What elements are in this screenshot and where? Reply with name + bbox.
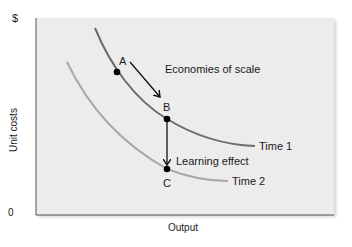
learning-effect-label: Learning effect bbox=[176, 155, 249, 167]
y-tick-zero: 0 bbox=[8, 207, 14, 218]
x-axis-label: Output bbox=[168, 222, 198, 233]
chart-canvas bbox=[0, 0, 352, 247]
point-a-label: A bbox=[119, 55, 126, 67]
economies-of-scale-label: Economies of scale bbox=[165, 63, 260, 75]
point-c-marker bbox=[164, 166, 171, 173]
time2-label: Time 2 bbox=[232, 175, 265, 187]
y-tick-top: $ bbox=[12, 12, 18, 24]
point-b-label: B bbox=[163, 101, 170, 113]
time1-curve bbox=[95, 28, 255, 146]
time1-label: Time 1 bbox=[259, 140, 292, 152]
point-c-label: C bbox=[163, 177, 171, 189]
point-a-marker bbox=[114, 69, 121, 76]
y-axis-label: Unit costs bbox=[8, 108, 19, 152]
point-b-marker bbox=[164, 116, 171, 123]
